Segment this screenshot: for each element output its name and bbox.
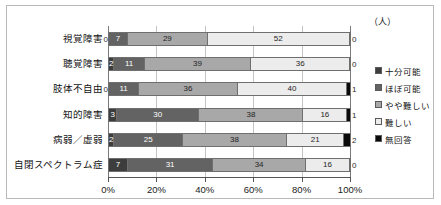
segment-value-label: 0: [352, 159, 356, 173]
segment-value-label: 1: [352, 109, 356, 123]
bar-row: 01136401: [108, 82, 351, 96]
segment-value-label: 40: [288, 85, 297, 93]
x-axis-tick: [350, 178, 351, 182]
bar-segment: 38: [199, 109, 303, 121]
bar-segment: 31: [128, 159, 213, 171]
segment-value-label: 3: [110, 111, 114, 119]
category-label: 肢体不自由: [7, 82, 103, 96]
bar-segment: 3: [109, 109, 117, 121]
stacked-bar: 01136401: [108, 82, 351, 96]
legend-item[interactable]: 難しい: [375, 113, 441, 130]
segment-value-label: 38: [230, 136, 239, 144]
bar-segment: 16: [306, 159, 350, 171]
category-label: 視覚障害: [7, 32, 103, 46]
x-axis-tick-label: 20%: [147, 184, 166, 195]
bar-segment: 1: [347, 83, 350, 95]
bar-segment: 38: [183, 134, 287, 146]
stacked-bar: 22538212: [108, 133, 351, 147]
bar-segment: 11: [109, 83, 139, 95]
x-axis-tick: [302, 178, 303, 182]
legend-swatch-icon: [375, 101, 382, 108]
bar-segment: 2: [344, 134, 349, 146]
bar-segment: 34: [213, 159, 306, 171]
bar-segment: 21: [287, 134, 345, 146]
x-axis-tick-label: 60%: [244, 184, 263, 195]
segment-value-label: 1: [352, 83, 356, 97]
bar-row: 33038161: [108, 108, 351, 122]
x-axis-tick-label: 0%: [101, 184, 115, 195]
bar-segment: 39: [145, 58, 252, 70]
gridline: [302, 26, 303, 178]
segment-value-label: 29: [163, 35, 172, 43]
segment-value-label: 16: [323, 161, 332, 169]
bar-segment: 36: [251, 58, 350, 70]
stacked-bar: 0729520: [108, 32, 351, 46]
legend-item[interactable]: やや難しい: [375, 96, 441, 113]
bar-segment: 7: [109, 159, 128, 171]
category-axis: 視覚障害聴覚障害肢体不自由知的障害病弱／虚弱自閉スペクトラム症: [7, 26, 103, 178]
bar-segment: 11: [114, 58, 144, 70]
category-label: 聴覚障害: [7, 57, 103, 71]
stacked-bar: 73134160: [108, 158, 351, 172]
x-axis-tick: [108, 178, 109, 182]
legend-item[interactable]: ほぼ可能: [375, 79, 441, 96]
unit-label: （人）: [369, 15, 396, 28]
x-axis-line: [108, 177, 351, 178]
legend-swatch-icon: [375, 67, 382, 74]
x-axis-tick: [156, 178, 157, 182]
bar-segment: 25: [114, 134, 182, 146]
legend-item[interactable]: 無回答: [375, 130, 441, 147]
x-axis-tick: [205, 178, 206, 182]
bar-segment: 29: [128, 33, 207, 45]
segment-value-label: 25: [144, 136, 153, 144]
legend-swatch-icon: [375, 84, 382, 91]
category-label: 病弱／虚弱: [7, 133, 103, 147]
segment-value-label: 2: [352, 134, 356, 148]
gridline: [156, 26, 157, 178]
segment-value-label: 38: [246, 111, 255, 119]
legend-label: ほぼ可能: [385, 82, 421, 94]
bar-row: 22538212: [108, 133, 351, 147]
plot-left-border: [108, 26, 109, 178]
segment-value-label: 16: [320, 111, 329, 119]
segment-value-label: 0: [352, 58, 356, 72]
legend-swatch-icon: [375, 135, 382, 142]
bar-row: 21139360: [108, 57, 351, 71]
segment-value-label: 36: [183, 85, 192, 93]
x-axis-tick-label: 40%: [195, 184, 214, 195]
bar-segment: 1: [347, 109, 350, 121]
segment-value-label: 39: [193, 60, 202, 68]
stacked-bar: 21139360: [108, 57, 351, 71]
bar-row: 73134160: [108, 158, 351, 172]
segment-value-label: 30: [153, 111, 162, 119]
x-axis-tick-label: 80%: [292, 184, 311, 195]
legend-label: 十分可能: [385, 65, 421, 77]
bar-segment: 52: [208, 33, 350, 45]
legend-label: 無回答: [385, 133, 412, 145]
bar-segment: 36: [139, 83, 238, 95]
category-label: 知的障害: [7, 108, 103, 122]
bar-segment: 16: [303, 109, 347, 121]
legend-label: やや難しい: [385, 99, 430, 111]
x-axis-tick: [253, 178, 254, 182]
x-axis-labels: 0%20%40%60%80%100%: [108, 184, 351, 200]
segment-value-label: 0: [352, 33, 356, 47]
gridline: [253, 26, 254, 178]
segment-value-label: 11: [119, 85, 127, 93]
segment-value-label: 11: [125, 60, 133, 68]
segment-value-label: 0: [104, 33, 108, 47]
legend-label: 難しい: [385, 116, 412, 128]
bar-segment: 30: [117, 109, 199, 121]
chart-legend: 十分可能ほぼ可能やや難しい難しい無回答: [375, 62, 441, 147]
plot-area: 0729520211393600113640133038161225382127…: [108, 26, 351, 178]
segment-value-label: 31: [166, 161, 175, 169]
segment-value-label: 34: [255, 161, 264, 169]
segment-value-label: 0: [104, 83, 108, 97]
legend-item[interactable]: 十分可能: [375, 62, 441, 79]
bar-segment: 40: [238, 83, 348, 95]
segment-value-label: 36: [296, 60, 305, 68]
segment-value-label: 7: [116, 161, 120, 169]
segment-value-label: 2: [109, 136, 113, 144]
category-label: 自閉スペクトラム症: [7, 158, 103, 172]
segment-value-label: 52: [274, 35, 283, 43]
